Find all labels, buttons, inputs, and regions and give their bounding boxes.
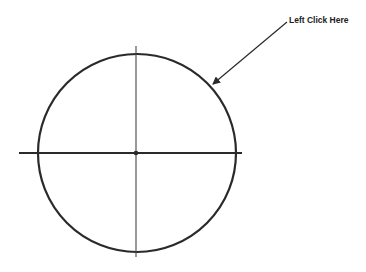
pointer-arrow-icon [213, 22, 287, 84]
left-click-here-label: Left Click Here [289, 15, 349, 25]
diagram-canvas [0, 0, 366, 272]
center-point [134, 151, 139, 156]
